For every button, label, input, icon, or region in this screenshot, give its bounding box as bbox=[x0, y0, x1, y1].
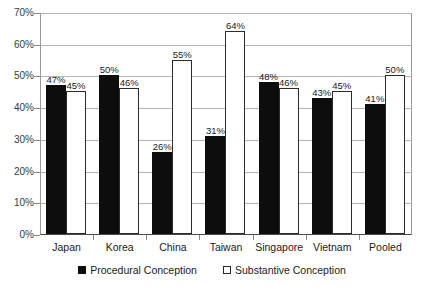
y-axis-tick-label: 30% bbox=[0, 135, 34, 145]
legend-item-substantive[interactable]: Substantive Conception bbox=[223, 264, 346, 276]
bar-value-label: 46% bbox=[275, 77, 303, 88]
bar-pooled-procedural bbox=[365, 104, 385, 234]
x-axis-tick-mark bbox=[199, 235, 200, 240]
bar-value-label: 50% bbox=[95, 64, 123, 75]
bar-value-label: 55% bbox=[168, 49, 196, 60]
bar-value-label: 45% bbox=[328, 80, 356, 91]
y-axis-tick-label: 40% bbox=[0, 103, 34, 113]
bar-vietnam-procedural bbox=[312, 98, 332, 234]
bar-korea-procedural bbox=[99, 75, 119, 234]
bar-pooled-substantive bbox=[385, 75, 405, 234]
y-axis-tick-label: 70% bbox=[0, 8, 34, 18]
bar-value-label: 64% bbox=[221, 20, 249, 31]
bar-value-label: 46% bbox=[115, 77, 143, 88]
x-axis-tick-mark bbox=[253, 235, 254, 240]
hollow-square-icon bbox=[223, 266, 231, 274]
x-axis-category-label-pooled: Pooled bbox=[353, 241, 418, 254]
x-axis-tick-mark bbox=[306, 235, 307, 240]
legend-item-procedural[interactable]: Procedural Conception bbox=[78, 264, 197, 276]
filled-square-icon bbox=[78, 266, 86, 274]
x-axis-tick-mark bbox=[146, 235, 147, 240]
legend-item-label: Procedural Conception bbox=[90, 264, 197, 276]
plot-area: 47%45%50%46%26%55%31%64%48%46%43%45%41%5… bbox=[40, 13, 412, 235]
bar-value-label: 50% bbox=[381, 64, 409, 75]
bar-value-label: 45% bbox=[62, 80, 90, 91]
x-axis-tick-mark bbox=[359, 235, 360, 240]
bar-korea-substantive bbox=[119, 88, 139, 234]
chart-legend: Procedural ConceptionSubstantive Concept… bbox=[0, 264, 424, 276]
bar-singapore-substantive bbox=[279, 88, 299, 234]
bar-singapore-procedural bbox=[259, 82, 279, 234]
bar-china-substantive bbox=[172, 60, 192, 234]
legend-item-label: Substantive Conception bbox=[235, 264, 346, 276]
bar-taiwan-substantive bbox=[225, 31, 245, 234]
y-axis-tick-label: 20% bbox=[0, 167, 34, 177]
y-axis-tick-label: 10% bbox=[0, 198, 34, 208]
x-axis-tick-mark bbox=[93, 235, 94, 240]
y-axis-tick-label: 50% bbox=[0, 71, 34, 81]
y-axis-tick-mark bbox=[34, 235, 40, 236]
y-axis-tick-label: 0% bbox=[0, 230, 34, 240]
gridline bbox=[41, 13, 411, 14]
bar-taiwan-procedural bbox=[205, 136, 225, 234]
bar-chart: 0%10%20%30%40%50%60%70% 47%45%50%46%26%5… bbox=[0, 0, 424, 287]
bar-vietnam-substantive bbox=[332, 91, 352, 234]
bar-japan-substantive bbox=[66, 91, 86, 234]
y-axis-tick-label: 60% bbox=[0, 40, 34, 50]
bar-japan-procedural bbox=[46, 85, 66, 234]
bar-china-procedural bbox=[152, 152, 172, 234]
